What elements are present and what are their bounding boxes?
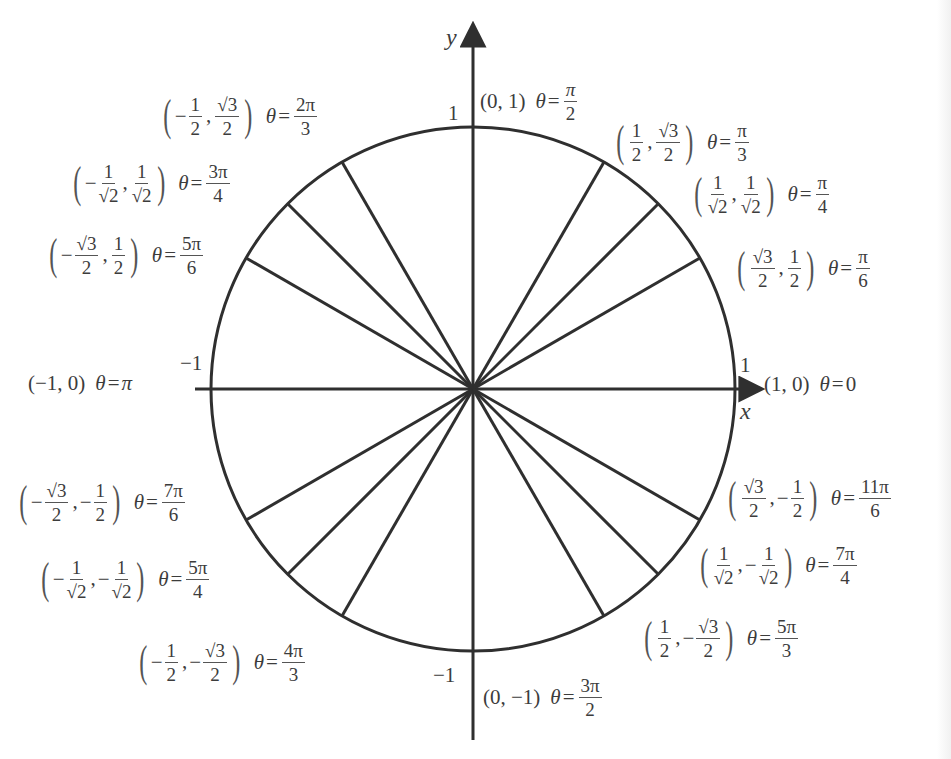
minus-sign: − (151, 652, 163, 673)
x-coordinate: √32 (742, 477, 766, 520)
label-theta-3pi-over-2: (0, −1) θ= 3π2 (483, 676, 604, 719)
denominator: √2 (99, 184, 119, 205)
comma: , (647, 131, 652, 164)
comma: , (675, 627, 680, 660)
equals-sign: = (108, 373, 120, 394)
angle-fraction: 11π6 (859, 477, 891, 520)
denominator: 6 (187, 256, 197, 277)
theta-symbol: θ (536, 91, 546, 112)
label-point-135deg: (−1√2,1√2)θ=3π4 (70, 161, 232, 205)
equals-sign: = (170, 569, 182, 590)
angle-fraction: π4 (816, 173, 830, 216)
angle-fraction: 5π4 (186, 558, 209, 601)
minus-sign: − (31, 492, 43, 513)
denominator: 2 (52, 503, 62, 524)
left-paren: ( (728, 476, 736, 520)
denominator: 2 (758, 269, 768, 290)
label-point-315deg: (1√2,−1√2)θ=7π4 (697, 543, 859, 587)
numerator: 1 (94, 481, 108, 503)
coord-text: (−1, 0) (28, 373, 85, 394)
x-coordinate: √32 (751, 247, 775, 290)
equals-sign: = (278, 106, 290, 127)
minus-sign: − (682, 628, 694, 649)
numerator: 1 (744, 173, 758, 195)
theta-symbol: θ (178, 173, 188, 194)
numerator: 1 (189, 95, 203, 117)
label-point-45deg: (1√2,1√2)θ=π4 (691, 172, 831, 216)
angle-fraction: 3π4 (206, 162, 229, 205)
x-coordinate: 1√2 (99, 162, 119, 205)
numerator: 5π (186, 558, 209, 580)
y-axis-label: y (446, 24, 457, 51)
numerator: π (856, 247, 870, 269)
unit-circle-diagram: y x 1 −1 −1 1 (1, 0) θ=0 (0, 1) θ= π2 (−… (0, 0, 951, 759)
denominator: 3 (289, 663, 299, 684)
minus-sign: − (85, 173, 97, 194)
numerator: 2π (294, 95, 317, 117)
comma: , (732, 183, 737, 216)
numerator: 1 (70, 558, 84, 580)
denominator: 2 (664, 143, 674, 164)
numerator: √3 (215, 95, 239, 117)
minus-sign: − (777, 488, 789, 509)
denominator: 2 (749, 499, 759, 520)
denominator: 3 (737, 143, 747, 164)
x-tick-pos: 1 (740, 353, 751, 378)
y-coordinate: 1√2 (741, 173, 761, 216)
angle-fraction: 5π3 (775, 617, 798, 660)
right-paren: ) (112, 480, 120, 524)
theta-symbol: θ (158, 569, 168, 590)
comma: , (770, 487, 775, 520)
theta-symbol: θ (550, 687, 560, 708)
label-point-120deg: (−12,√32)θ=2π3 (160, 94, 319, 138)
equals-sign: = (191, 173, 203, 194)
denominator: 2 (793, 499, 803, 520)
coord-text: (1, 0) (764, 374, 810, 395)
left-paren: ( (644, 616, 652, 660)
y-tick-neg: −1 (433, 663, 455, 688)
label-point-300deg: (12,−√32)θ=5π3 (641, 616, 800, 660)
x-coordinate: 12 (630, 121, 644, 164)
numerator: 1 (165, 641, 179, 663)
angle-fraction: π6 (856, 247, 870, 290)
numerator: 5π (775, 617, 798, 639)
numerator: 5π (180, 234, 203, 256)
equals-sign: = (832, 374, 844, 395)
numerator: √3 (751, 247, 775, 269)
left-paren: ( (19, 480, 27, 524)
numerator: 1 (717, 544, 731, 566)
y-coordinate: √32 (696, 617, 720, 660)
denominator: 6 (858, 269, 868, 290)
angle-fraction: 7π6 (162, 481, 185, 524)
right-paren: ) (232, 640, 240, 684)
denominator: 3 (782, 639, 792, 660)
numerator: π (735, 121, 749, 143)
equals-sign: = (146, 492, 158, 513)
x-coordinate: 12 (658, 617, 672, 660)
right-paren: ) (130, 233, 138, 277)
numerator: √3 (75, 234, 99, 256)
label-point-60deg: (12,√32)θ=π3 (613, 120, 751, 164)
label-point-225deg: (−1√2,−1√2)θ=5π4 (38, 557, 211, 601)
theta-symbol: θ (787, 184, 797, 205)
denominator: 2 (632, 143, 642, 164)
denominator: √2 (708, 195, 728, 216)
denominator: 2 (210, 663, 220, 684)
x-coordinate: √32 (75, 234, 99, 277)
equals-sign: = (719, 132, 731, 153)
label-theta-pi: (−1, 0) θ=π (28, 373, 132, 394)
x-axis-label: x (740, 398, 751, 425)
theta-symbol: θ (254, 652, 264, 673)
label-theta-pi-over-2: (0, 1) θ= π2 (480, 80, 579, 123)
denominator: 6 (870, 499, 880, 520)
numerator: 1 (791, 477, 805, 499)
angle-fraction: π3 (735, 121, 749, 164)
denominator: 2 (660, 639, 670, 660)
equals-sign: = (818, 555, 830, 576)
comma: , (72, 491, 77, 524)
y-tick-pos: 1 (448, 101, 459, 126)
left-paren: ( (694, 172, 702, 216)
right-paren: ) (157, 161, 165, 205)
y-coordinate: √32 (203, 641, 227, 684)
numerator: 1 (135, 162, 149, 184)
